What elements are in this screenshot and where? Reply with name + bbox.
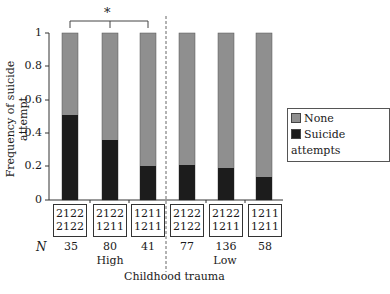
genotype-box-4: 21222122 xyxy=(170,204,204,237)
legend: None Suicide attempts xyxy=(287,108,390,162)
bar-3 xyxy=(140,33,156,200)
bar-5 xyxy=(218,33,234,200)
bar-6 xyxy=(256,33,272,200)
significance-marker: * xyxy=(104,5,111,20)
n-label: N xyxy=(36,240,47,254)
n-value-4: 77 xyxy=(172,240,202,253)
genotype-box-6: 12111211 xyxy=(248,204,282,237)
bar-2 xyxy=(102,33,118,200)
n-value-2: 80 xyxy=(95,240,125,253)
bar-1 xyxy=(62,33,78,200)
group-label-high: High xyxy=(80,254,140,267)
n-value-6: 58 xyxy=(250,240,280,253)
bar-4 xyxy=(179,33,195,200)
genotype-box-5: 21221211 xyxy=(209,204,243,237)
n-value-3: 41 xyxy=(133,240,163,253)
legend-item-none: None xyxy=(291,111,386,127)
genotype-box-2: 21221211 xyxy=(93,204,127,237)
legend-item-attempts: Suicide attempts xyxy=(291,127,386,159)
legend-swatch-none xyxy=(291,113,301,123)
significance-bracket xyxy=(70,21,148,28)
n-value-5: 136 xyxy=(211,240,241,253)
genotype-box-3: 12111211 xyxy=(131,204,165,237)
legend-swatch-attempts xyxy=(291,129,301,139)
x-axis-label: Childhood trauma xyxy=(124,270,225,283)
group-label-low: Low xyxy=(195,254,255,267)
genotype-box-1: 21222122 xyxy=(53,204,87,237)
n-value-1: 35 xyxy=(56,240,86,253)
